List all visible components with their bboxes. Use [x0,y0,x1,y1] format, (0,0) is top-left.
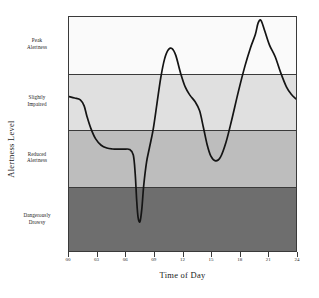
band-label-4: Dangerously Drowsy [11,212,63,226]
plot-area [68,16,297,252]
x-axis-title: Time of Day [68,270,297,280]
band-label-2: Slightly Impaired [11,94,63,108]
alertness-curve-line [69,20,296,222]
x-axis-label-06: 06 [115,257,135,262]
alertness-curve-svg [69,17,296,251]
x-axis-label-24: 24 [287,257,307,262]
x-axis-label-09: 09 [144,257,164,262]
x-axis-label-15: 15 [201,257,221,262]
x-axis-label-21: 21 [258,257,278,262]
band-label-1: Peak Alertness [11,37,63,51]
x-axis-label-12: 12 [173,257,193,262]
band-label-3: Reduced Alertness [11,151,63,165]
x-axis-label-18: 18 [230,257,250,262]
x-axis-label-00: 00 [58,257,78,262]
x-axis-label-03: 03 [87,257,107,262]
alertness-chart: Alertness Level Peak AlertnessSlightly I… [0,0,319,298]
